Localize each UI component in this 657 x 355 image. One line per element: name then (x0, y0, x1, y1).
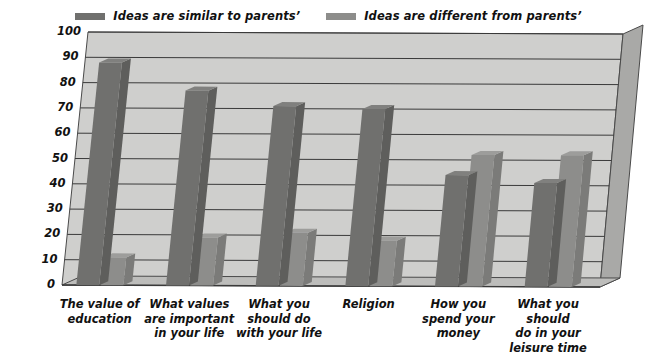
y-axis-tick-label: 0 (15, 277, 55, 291)
x-axis-category-label: What values are important in your life (137, 297, 241, 341)
x-axis-category-label: What you should do with your life (227, 297, 331, 341)
x-axis-category-label: How you spend your money (406, 297, 510, 341)
y-axis-tick-label: 10 (18, 252, 58, 266)
y-axis-tick-label: 80 (36, 75, 76, 89)
x-axis-category-label: What you should do in your leisure time (496, 297, 600, 355)
y-axis-tick-label: 40 (25, 176, 65, 190)
y-axis-tick-label: 90 (38, 49, 78, 63)
y-axis-tick-label: 50 (28, 151, 68, 165)
x-axis-category-label: The value of education (48, 297, 152, 326)
y-axis-tick-label: 20 (20, 226, 60, 240)
x-axis-labels: The value of educationWhat values are im… (0, 297, 657, 355)
y-axis-tick-label: 30 (23, 201, 63, 215)
chart-root: Ideas are similar to parents’ Ideas are … (0, 0, 657, 355)
y-axis-tick-label: 60 (31, 125, 71, 139)
y-axis-tick-label: 70 (33, 100, 73, 114)
y-axis-tick-label: 100 (41, 24, 81, 38)
x-axis-category-label: Religion (317, 297, 421, 312)
